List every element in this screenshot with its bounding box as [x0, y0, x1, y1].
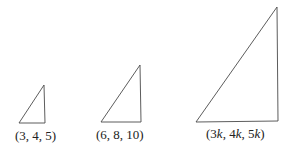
label-part: , 5 [241, 126, 254, 141]
triangle-3k-4k-5k [196, 7, 278, 122]
label-part: ) [260, 126, 264, 141]
label-3k-4k-5k: (3k, 4k, 5k) [206, 127, 265, 140]
triangle-6-8-10 [101, 65, 141, 122]
label-part: (3 [206, 126, 217, 141]
label-part: , 4 [223, 126, 236, 141]
triangle-3-4-5 [19, 85, 45, 123]
label-3-4-5: (3, 4, 5) [15, 129, 56, 142]
similar-triangles-diagram: (3, 4, 5) (6, 8, 10) (3k, 4k, 5k) [0, 0, 295, 149]
label-6-8-10: (6, 8, 10) [96, 128, 144, 141]
